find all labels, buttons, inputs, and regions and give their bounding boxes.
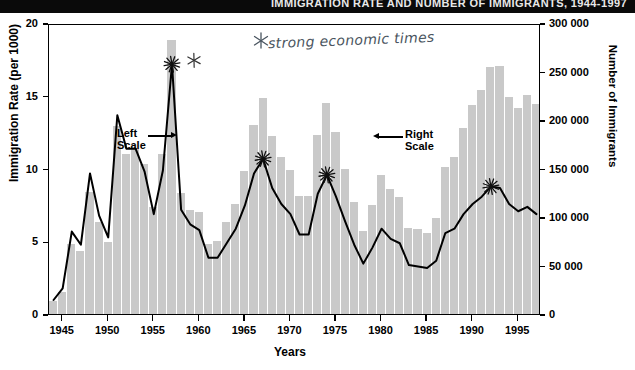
plot-area: Left Scale Right Scale bbox=[48, 24, 540, 315]
line-series bbox=[49, 25, 540, 315]
chart-page: IMMIGRATION RATE AND NUMBER OF IMMIGRANT… bbox=[0, 0, 635, 370]
right-scale-label-line2: Scale bbox=[405, 141, 434, 153]
right-scale-label-line1: Right bbox=[405, 129, 434, 141]
axis-tick bbox=[540, 314, 545, 315]
axis-tick bbox=[289, 315, 290, 321]
left-scale-callout: Left Scale bbox=[117, 128, 146, 151]
title-banner: IMMIGRATION RATE AND NUMBER OF IMMIGRANT… bbox=[0, 0, 635, 13]
y-axis-right-title: Number of Immigrants bbox=[607, 21, 619, 191]
axis-tick bbox=[334, 315, 335, 321]
axis-tick bbox=[471, 315, 472, 321]
x-axis-tick-label: 1995 bbox=[497, 324, 537, 336]
y-axis-right-tick-label: 250 000 bbox=[549, 66, 589, 78]
axis-tick bbox=[540, 72, 545, 73]
axis-tick bbox=[540, 217, 545, 218]
x-axis-tick-label: 1975 bbox=[315, 324, 355, 336]
y-axis-left-tick-label: 0 bbox=[14, 308, 38, 320]
y-axis-right-tick-label: 200 000 bbox=[549, 114, 589, 126]
axis-tick bbox=[152, 315, 153, 321]
axis-tick bbox=[198, 315, 199, 321]
axis-tick bbox=[380, 315, 381, 321]
axis-tick bbox=[107, 315, 108, 321]
x-axis-tick-label: 1965 bbox=[224, 324, 264, 336]
x-axis-tick-label: 1950 bbox=[87, 324, 127, 336]
x-axis-tick-label: 1990 bbox=[452, 324, 492, 336]
y-axis-right-tick-label: 150 000 bbox=[549, 163, 589, 175]
axis-tick bbox=[425, 315, 426, 321]
x-axis-tick-label: 1985 bbox=[406, 324, 446, 336]
x-axis-tick-label: 1945 bbox=[42, 324, 82, 336]
x-axis-title: Years bbox=[0, 345, 580, 359]
left-scale-label-line1: Left bbox=[117, 128, 146, 140]
y-axis-right-tick-label: 100 000 bbox=[549, 211, 589, 223]
y-axis-left-title: Immigration Rate (per 1000) bbox=[7, 23, 21, 183]
axis-tick bbox=[540, 266, 545, 267]
axis-tick bbox=[517, 315, 518, 321]
y-axis-right-tick-label: 50 000 bbox=[549, 260, 583, 272]
immigration-rate-line bbox=[54, 64, 537, 300]
x-axis-tick-label: 1960 bbox=[178, 324, 218, 336]
y-axis-left-tick-label: 5 bbox=[14, 235, 38, 247]
right-scale-callout: Right Scale bbox=[405, 129, 434, 152]
axis-tick bbox=[540, 23, 545, 24]
x-axis-tick-label: 1980 bbox=[361, 324, 401, 336]
axis-tick bbox=[540, 169, 545, 170]
axis-tick bbox=[61, 315, 62, 321]
left-scale-label-line2: Scale bbox=[117, 140, 146, 152]
y-axis-right-tick-label: 0 bbox=[549, 308, 555, 320]
axis-tick bbox=[540, 120, 545, 121]
banner-title-text: IMMIGRATION RATE AND NUMBER OF IMMIGRANT… bbox=[271, 0, 627, 9]
axis-tick bbox=[243, 315, 244, 321]
y-axis-right-tick-label: 300 000 bbox=[549, 17, 589, 29]
x-axis-tick-label: 1970 bbox=[269, 324, 309, 336]
x-axis-tick-label: 1955 bbox=[133, 324, 173, 336]
